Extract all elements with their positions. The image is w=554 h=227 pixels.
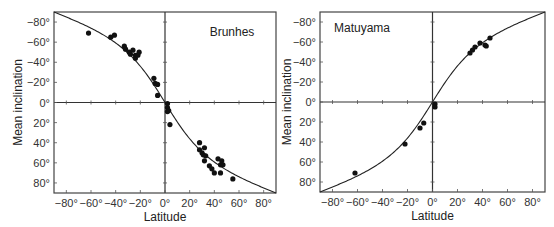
x-tick-label: 20°	[449, 196, 466, 208]
chart-figure: −80°−80°−60°−60°−40°−40°−20°−20°0°0°20°2…	[0, 0, 554, 227]
panel-title: Matuyama	[334, 21, 390, 35]
x-tick-label: −40°	[104, 197, 127, 209]
x-tick-label: 40°	[206, 197, 223, 209]
y-tick-label: −60°	[27, 36, 50, 48]
y-tick-label: −20°	[293, 76, 316, 88]
data-point	[151, 76, 156, 81]
data-point	[472, 44, 477, 49]
data-point	[203, 153, 208, 158]
y-tick-label: −60°	[293, 36, 316, 48]
data-point	[417, 125, 422, 130]
y-tick-label: −80°	[27, 16, 50, 28]
y-tick-label: −40°	[27, 56, 50, 68]
y-tick-label: 20°	[33, 117, 50, 129]
y-tick-label: −40°	[293, 56, 316, 68]
data-point	[402, 141, 407, 146]
panel-title: Brunhes	[210, 25, 255, 39]
data-point	[487, 35, 492, 40]
x-tick-label: 80°	[524, 196, 541, 208]
x-axis-title: Latitude	[144, 210, 187, 224]
data-point	[484, 43, 489, 48]
x-tick-label: 80°	[255, 197, 272, 209]
y-tick-label: 40°	[299, 136, 316, 148]
x-tick-label: −20°	[129, 197, 152, 209]
y-tick-label: 60°	[299, 156, 316, 168]
x-tick-label: 0°	[427, 196, 438, 208]
data-point	[112, 33, 117, 38]
data-point	[155, 93, 160, 98]
x-tick-label: −80°	[55, 197, 78, 209]
y-axis-title: Mean inclination	[11, 59, 25, 146]
x-tick-label: −60°	[346, 196, 369, 208]
data-point	[130, 48, 135, 53]
x-tick-label: −60°	[79, 197, 102, 209]
y-tick-label: 40°	[33, 137, 50, 149]
data-point	[218, 170, 223, 175]
data-point	[166, 108, 171, 113]
y-tick-label: 80°	[299, 176, 316, 188]
y-tick-label: −20°	[27, 76, 50, 88]
y-axis-title: Mean inclination	[280, 59, 294, 146]
matuyama-panel: −80°−80°−60°−60°−40°−40°−20°−20°0°0°20°2…	[280, 12, 545, 223]
data-point	[230, 176, 235, 181]
x-tick-label: 40°	[474, 196, 491, 208]
data-point	[167, 122, 172, 127]
data-point	[220, 162, 225, 167]
x-tick-label: −80°	[321, 196, 344, 208]
x-tick-label: 20°	[181, 197, 198, 209]
data-point	[86, 31, 91, 36]
x-tick-label: 60°	[231, 197, 248, 209]
data-point	[202, 145, 207, 150]
data-point	[421, 120, 426, 125]
y-tick-label: 0°	[305, 96, 316, 108]
y-tick-label: 80°	[33, 177, 50, 189]
data-point	[202, 158, 207, 163]
data-point	[155, 82, 160, 87]
x-axis-title: Latitude	[411, 209, 454, 223]
data-point	[137, 50, 142, 55]
y-tick-label: 60°	[33, 157, 50, 169]
y-tick-label: −80°	[293, 16, 316, 28]
data-point	[197, 140, 202, 145]
y-tick-label: 20°	[299, 116, 316, 128]
x-tick-label: 0°	[160, 197, 171, 209]
x-tick-label: −40°	[371, 196, 394, 208]
x-tick-label: 60°	[499, 196, 516, 208]
brunhes-panel: −80°−80°−60°−60°−40°−40°−20°−20°0°0°20°2…	[11, 12, 276, 224]
y-tick-label: 0°	[39, 97, 50, 109]
data-point	[477, 40, 482, 45]
data-point	[352, 170, 357, 175]
data-point	[432, 104, 437, 109]
x-tick-label: −20°	[396, 196, 419, 208]
data-point	[212, 170, 217, 175]
